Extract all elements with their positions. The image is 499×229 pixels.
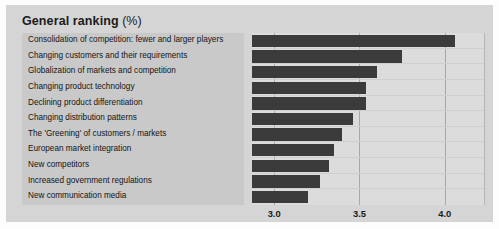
- category-label: Changing product technology: [28, 80, 242, 94]
- category-label: Increased government regulations: [28, 174, 242, 188]
- category-label: European market integration: [28, 142, 242, 156]
- bar: [252, 82, 366, 94]
- x-axis-tick-label: 3.0: [268, 208, 281, 220]
- category-label: The 'Greening' of customers / markets: [28, 127, 242, 141]
- category-label: Declining product differentiation: [28, 96, 242, 110]
- row-separator: [252, 63, 484, 64]
- bar: [252, 160, 329, 172]
- bar: [252, 144, 334, 156]
- row-separator: [252, 95, 484, 96]
- category-label: Changing distribution patterns: [28, 111, 242, 125]
- chart-panel: General ranking (%) Consolidation of com…: [6, 5, 493, 222]
- bar-chart: Consolidation of competition: fewer and …: [22, 33, 484, 207]
- x-axis: 3.03.54.0: [252, 208, 497, 222]
- x-axis-tick-label: 4.0: [438, 208, 451, 220]
- row-separator: [252, 141, 484, 142]
- page-title: General ranking (%): [22, 13, 142, 29]
- plot-area: [252, 33, 485, 205]
- row-separator: [252, 173, 484, 174]
- row-separator: [252, 126, 484, 127]
- bar: [252, 191, 308, 203]
- row-separator: [252, 110, 484, 111]
- bar: [252, 35, 455, 47]
- category-label: New communication media: [28, 189, 242, 203]
- x-axis-tick-label: 3.5: [353, 208, 366, 220]
- bar: [252, 97, 366, 109]
- title-unit: (%): [122, 14, 141, 28]
- row-separator: [252, 157, 484, 158]
- row-separator: [252, 79, 484, 80]
- title-main: General ranking: [22, 14, 119, 28]
- chart-figure: General ranking (%) Consolidation of com…: [0, 0, 499, 229]
- bar: [252, 66, 377, 78]
- bar: [252, 113, 353, 125]
- category-label: Changing customers and their requirement…: [28, 49, 242, 63]
- gridline-x-2: [445, 33, 446, 205]
- category-label: Consolidation of competition: fewer and …: [28, 33, 242, 47]
- bar: [252, 175, 320, 187]
- bar: [252, 128, 342, 140]
- category-label: Globalization of markets and competition: [28, 64, 242, 78]
- category-label-column: Consolidation of competition: fewer and …: [22, 33, 244, 205]
- category-label: New competitors: [28, 158, 242, 172]
- row-separator: [252, 188, 484, 189]
- bar: [252, 50, 402, 62]
- row-separator: [252, 48, 484, 49]
